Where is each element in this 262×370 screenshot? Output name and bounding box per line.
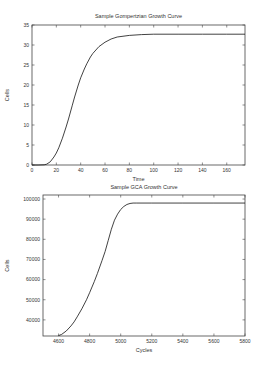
chart-title: Sample Gompertzian Growth Curve — [95, 13, 182, 19]
x-tick-label: 5200 — [146, 338, 157, 344]
x-tick-label: 5400 — [177, 338, 188, 344]
chart-title: Sample GCA Growth Curve — [110, 184, 177, 190]
x-tick-label: 140 — [198, 167, 207, 173]
y-axis-label: Cells — [4, 259, 10, 271]
y-tick-label: 40000 — [26, 317, 40, 323]
plot-frame — [43, 195, 245, 336]
x-tick-label: 5800 — [239, 338, 250, 344]
x-tick-label: 120 — [174, 167, 183, 173]
x-tick-label: 5000 — [115, 338, 126, 344]
y-tick-label: 30 — [23, 42, 29, 48]
x-tick-label: 60 — [102, 167, 108, 173]
x-tick-label: 5600 — [208, 338, 219, 344]
plot-frame — [32, 25, 245, 165]
x-tick-label: 20 — [54, 167, 60, 173]
x-tick-label: 4800 — [84, 338, 95, 344]
growth-curve-line — [59, 203, 245, 336]
y-tick-label: 50000 — [26, 297, 40, 303]
gompertz-chart: Sample Gompertzian Growth Curve020406080… — [0, 0, 262, 185]
y-tick-label: 90000 — [26, 216, 40, 222]
y-tick-label: 35 — [23, 22, 29, 28]
x-tick-label: 4600 — [53, 338, 64, 344]
y-tick-label: 0 — [26, 162, 29, 168]
x-tick-label: 160 — [223, 167, 232, 173]
y-tick-label: 20 — [23, 82, 29, 88]
x-tick-label: 0 — [31, 167, 34, 173]
growth-curve-line — [32, 34, 245, 165]
x-tick-label: 100 — [150, 167, 159, 173]
y-tick-label: 15 — [23, 102, 29, 108]
x-tick-label: 80 — [127, 167, 133, 173]
x-tick-label: 40 — [78, 167, 84, 173]
y-tick-label: 5 — [26, 142, 29, 148]
gompertz-chart-svg: Sample Gompertzian Growth Curve020406080… — [0, 0, 262, 185]
gca-chart-svg: Sample GCA Growth Curve46004800500052005… — [0, 180, 262, 370]
y-tick-label: 80000 — [26, 236, 40, 242]
y-tick-label: 60000 — [26, 276, 40, 282]
y-tick-label: 100000 — [23, 196, 40, 202]
y-tick-label: 10 — [23, 122, 29, 128]
y-axis-label: Cells — [4, 89, 10, 101]
y-tick-label: 70000 — [26, 256, 40, 262]
gca-chart: Sample GCA Growth Curve46004800500052005… — [0, 180, 262, 370]
y-tick-label: 25 — [23, 62, 29, 68]
x-axis-label: Cycles — [136, 347, 153, 353]
